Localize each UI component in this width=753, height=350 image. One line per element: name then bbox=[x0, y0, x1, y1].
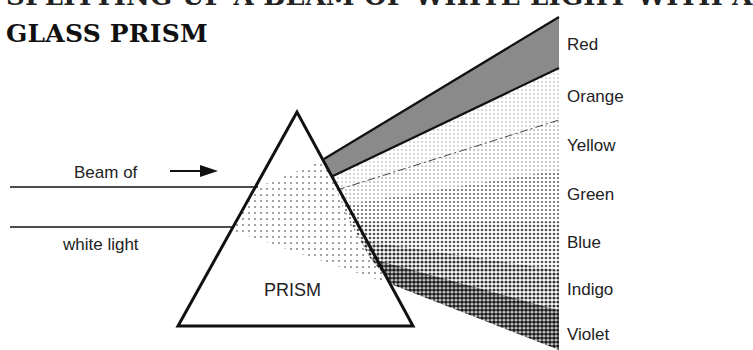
band-labels: Red Orange Yellow Green Blue Indigo Viol… bbox=[567, 35, 624, 344]
arrow-right-icon bbox=[170, 165, 218, 177]
beam-label-top: Beam of bbox=[74, 163, 138, 182]
prism-label: PRISM bbox=[264, 280, 321, 300]
label-indigo: Indigo bbox=[567, 280, 613, 299]
label-green: Green bbox=[567, 185, 614, 204]
label-yellow: Yellow bbox=[567, 136, 616, 155]
label-orange: Orange bbox=[567, 87, 624, 106]
label-blue: Blue bbox=[567, 233, 601, 252]
label-red: Red bbox=[567, 35, 598, 54]
beam-label-bottom: white light bbox=[62, 235, 139, 254]
spectrum bbox=[324, 17, 559, 350]
label-violet: Violet bbox=[567, 325, 609, 344]
